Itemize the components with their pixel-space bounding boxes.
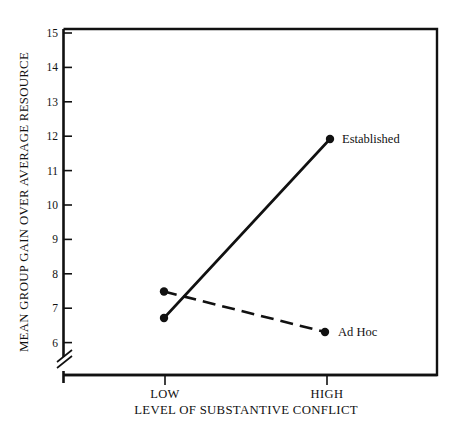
y-tick-label-9: 9 bbox=[52, 233, 58, 245]
y-tick-label-13: 13 bbox=[47, 96, 59, 108]
y-tick-label-11: 11 bbox=[47, 165, 58, 177]
series-established: Established bbox=[160, 132, 401, 322]
data-point-established-high bbox=[326, 135, 334, 143]
series-label-established: Established bbox=[342, 132, 400, 146]
x-tick-label-low: LOW bbox=[150, 387, 180, 401]
data-point-ad-hoc-high bbox=[321, 328, 329, 336]
series-established-line bbox=[164, 139, 330, 318]
data-point-ad-hoc-low bbox=[160, 287, 168, 295]
y-tick-label-14: 14 bbox=[47, 61, 59, 73]
y-axis-title: MEAN GROUP GAIN OVER AVERAGE RESOURCE bbox=[17, 52, 31, 352]
x-axis-title: LEVEL OF SUBSTANTIVE CONFLICT bbox=[134, 403, 358, 417]
chart-figure: 15 14 13 12 11 10 9 8 7 6 LOW HIGH LEVEL… bbox=[0, 0, 456, 429]
series-ad-hoc: Ad Hoc bbox=[160, 287, 378, 339]
y-tick-label-7: 7 bbox=[52, 302, 58, 314]
y-tick-label-6: 6 bbox=[52, 337, 58, 349]
y-tick-label-10: 10 bbox=[47, 199, 59, 211]
y-tick-label-15: 15 bbox=[47, 27, 59, 39]
y-tick-label-8: 8 bbox=[52, 268, 58, 280]
y-tick-label-12: 12 bbox=[47, 130, 59, 142]
series-label-ad-hoc: Ad Hoc bbox=[338, 325, 378, 339]
line-chart-canvas: 15 14 13 12 11 10 9 8 7 6 LOW HIGH LEVEL… bbox=[0, 0, 456, 429]
plot-frame bbox=[64, 29, 438, 383]
x-tick-label-high: HIGH bbox=[311, 387, 344, 401]
y-tick-label-group: 15 14 13 12 11 10 9 8 7 6 bbox=[47, 27, 59, 349]
data-point-established-low bbox=[160, 314, 168, 322]
plot-border-box bbox=[64, 29, 438, 375]
x-tick-group bbox=[165, 375, 327, 385]
series-ad-hoc-line bbox=[164, 292, 325, 333]
